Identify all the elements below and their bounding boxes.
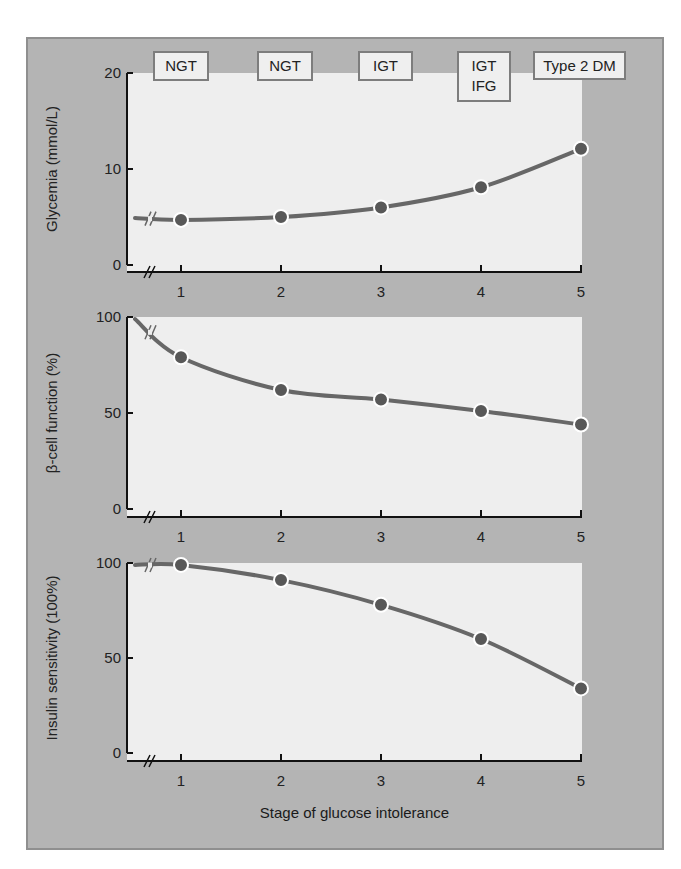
stage-label-text: IGT	[360, 56, 411, 76]
stage-label-box: NGT	[257, 51, 313, 81]
data-point	[574, 142, 588, 156]
data-point	[574, 418, 588, 432]
x-tick-label: 2	[277, 528, 285, 545]
data-point	[374, 598, 388, 612]
data-point	[474, 180, 488, 194]
y-axis-title: Insulin sensitivity (100%)	[43, 575, 60, 740]
y-tick-label: 100	[96, 308, 121, 325]
data-point	[374, 200, 388, 214]
chart-canvas: 0102012345Glycemia (mmol/L)05010012345β-…	[0, 0, 681, 869]
data-point	[174, 350, 188, 364]
x-tick-label: 4	[477, 283, 485, 300]
y-tick-label: 10	[104, 160, 121, 177]
stage-label-text: Type 2 DM	[535, 56, 624, 76]
data-point	[274, 383, 288, 397]
x-tick-label: 4	[477, 772, 485, 789]
plot-area	[127, 73, 582, 272]
stage-label-text: IFG	[459, 76, 509, 96]
data-point	[174, 558, 188, 572]
x-tick-label: 1	[177, 283, 185, 300]
x-tick-label: 3	[377, 772, 385, 789]
x-tick-label: 5	[577, 528, 585, 545]
x-tick-label: 4	[477, 528, 485, 545]
stage-label-text: NGT	[155, 56, 207, 76]
y-tick-label: 0	[113, 500, 121, 517]
y-tick-label: 50	[104, 649, 121, 666]
x-tick-label: 5	[577, 283, 585, 300]
data-point	[474, 404, 488, 418]
x-axis-title: Stage of glucose intolerance	[127, 804, 582, 821]
x-tick-label: 3	[377, 528, 385, 545]
curve-break-gap	[148, 216, 152, 221]
y-tick-label: 50	[104, 404, 121, 421]
y-tick-label: 0	[113, 744, 121, 761]
curve-break-gap	[148, 330, 152, 335]
y-axis-title: Glycemia (mmol/L)	[43, 106, 60, 232]
data-point	[374, 393, 388, 407]
y-axis-title: β-cell function (%)	[43, 353, 60, 473]
x-tick-label: 3	[377, 283, 385, 300]
y-tick-label: 0	[113, 256, 121, 273]
stage-label-box: IGT	[358, 51, 413, 81]
data-point	[574, 681, 588, 695]
data-point	[274, 210, 288, 224]
stage-label-text: IGT	[459, 56, 509, 76]
plot-area	[127, 563, 582, 761]
data-point	[274, 573, 288, 587]
data-point	[474, 632, 488, 646]
stage-label-box: NGT	[153, 51, 209, 81]
x-tick-label: 1	[177, 772, 185, 789]
data-point	[174, 213, 188, 227]
stage-label-text: NGT	[259, 56, 311, 76]
y-tick-label: 20	[104, 64, 121, 81]
x-tick-label: 2	[277, 772, 285, 789]
x-tick-label: 5	[577, 772, 585, 789]
x-tick-label: 1	[177, 528, 185, 545]
y-tick-label: 100	[96, 554, 121, 571]
curve-break-gap	[148, 562, 152, 567]
x-tick-label: 2	[277, 283, 285, 300]
stage-label-box: IGTIFG	[457, 51, 511, 102]
stage-label-box: Type 2 DM	[533, 51, 626, 80]
